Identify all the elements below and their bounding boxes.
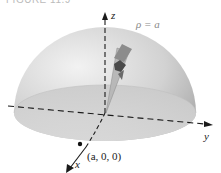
y-axis-arrow: [204, 121, 213, 127]
x-axis-label: x: [74, 158, 80, 170]
surface-label: ρ = a: [135, 18, 160, 30]
z-axis-arrow: [102, 12, 108, 20]
point-a-0-0: [78, 142, 82, 146]
point-label: (a, 0, 0): [87, 150, 122, 163]
x-axis-arrow: [66, 164, 74, 173]
z-axis-label: z: [110, 9, 116, 21]
y-axis-label: y: [203, 130, 209, 142]
hemisphere-diagram: z ρ = a y x (a, 0, 0): [0, 0, 221, 173]
